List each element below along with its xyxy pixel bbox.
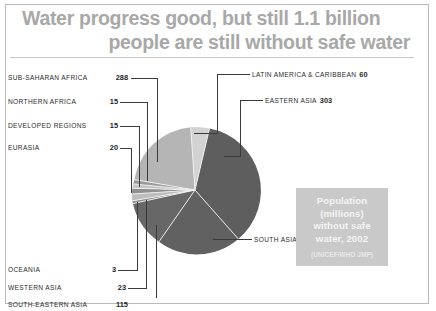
label-western-asia: WESTERN ASIA xyxy=(8,284,62,291)
leader-eastern-asia xyxy=(224,100,263,156)
leader-northern-africa xyxy=(120,102,147,181)
value-south-eastern-asia: 115 xyxy=(86,300,128,309)
label-northern-africa-name: NORTHERN AFRICA xyxy=(8,98,76,105)
value-developed-regions: 15 xyxy=(76,121,118,130)
legend-line-3: without safe xyxy=(296,220,388,233)
label-eurasia: EURASIA xyxy=(8,144,39,151)
value-eurasia: 20 xyxy=(76,143,118,152)
leader-eurasia xyxy=(120,148,131,193)
title-line-1: Water progress good, but still 1.1 billi… xyxy=(12,6,424,30)
label-eastern-asia-name: EASTERN ASIA xyxy=(265,97,317,104)
label-eastern-asia: EASTERN ASIA303 xyxy=(265,96,332,105)
title-divider xyxy=(10,57,414,58)
label-sub-saharan-africa: SUB-SAHARAN AFRICA xyxy=(8,74,88,81)
value-western-asia: 23 xyxy=(84,283,126,292)
leader-south-eastern-asia xyxy=(131,225,156,298)
leader-sub-saharan-africa xyxy=(131,78,157,162)
title-line-2: people are still without safe water xyxy=(12,30,424,54)
legend-box: Population (millions) without safe water… xyxy=(296,188,388,266)
legend-main-text: Population (millions) without safe water… xyxy=(296,195,388,245)
label-western-asia-name: WESTERN ASIA xyxy=(8,284,62,291)
label-sub-saharan-africa-name: SUB-SAHARAN AFRICA xyxy=(8,74,88,81)
value-northern-africa: 15 xyxy=(76,97,118,106)
legend-line-1: Population xyxy=(296,195,388,208)
legend-line-4: water, 2002 xyxy=(296,233,388,246)
slide-canvas: Water progress good, but still 1.1 billi… xyxy=(0,0,436,311)
leader-developed-regions xyxy=(120,126,139,187)
label-south-eastern-asia-name: SOUTH-EASTERN ASIA xyxy=(8,301,87,308)
label-south-asia-name: SOUTH ASIA xyxy=(254,236,297,243)
page-title: Water progress good, but still 1.1 billi… xyxy=(12,6,424,56)
value-eastern-asia: 303 xyxy=(320,96,332,105)
leader-oceania xyxy=(118,202,137,270)
label-oceania: OCEANIA xyxy=(8,266,40,273)
label-eurasia-name: EURASIA xyxy=(8,144,39,151)
value-sub-saharan-africa: 288 xyxy=(86,73,128,82)
value-oceania: 3 xyxy=(74,265,116,274)
label-developed-regions: DEVELOPED REGIONS xyxy=(8,122,87,129)
pie-chart: SUB-SAHARAN AFRICA 288 NORTHERN AFRICA 1… xyxy=(0,60,424,298)
label-latin-america: LATIN AMERICA & CARIBBEAN60 xyxy=(252,70,368,79)
label-developed-regions-name: DEVELOPED REGIONS xyxy=(8,122,87,129)
value-latin-america: 60 xyxy=(359,70,367,79)
label-northern-africa: NORTHERN AFRICA xyxy=(8,98,76,105)
legend-source: (UNICEF/WHO JMP) xyxy=(296,251,388,258)
label-latin-america-name: LATIN AMERICA & CARIBBEAN xyxy=(252,71,356,78)
leader-latin-america xyxy=(194,74,250,133)
legend-line-2: (millions) xyxy=(296,208,388,221)
label-oceania-name: OCEANIA xyxy=(8,266,40,273)
label-south-eastern-asia: SOUTH-EASTERN ASIA xyxy=(8,301,87,308)
